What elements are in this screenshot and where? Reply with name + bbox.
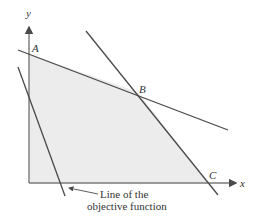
annotation-line-1: Line of the xyxy=(100,188,148,200)
annotation-arrow xyxy=(69,188,98,194)
point-b-label: B xyxy=(139,83,146,95)
annotation-line-2: objective function xyxy=(87,200,167,212)
lp-diagram: y x A B C Line of the objective function xyxy=(0,0,253,223)
point-c-label: C xyxy=(209,169,217,181)
x-axis-label: x xyxy=(239,177,245,189)
feasible-region xyxy=(29,54,208,183)
point-a-label: A xyxy=(31,42,39,54)
y-axis-label: y xyxy=(25,7,31,19)
